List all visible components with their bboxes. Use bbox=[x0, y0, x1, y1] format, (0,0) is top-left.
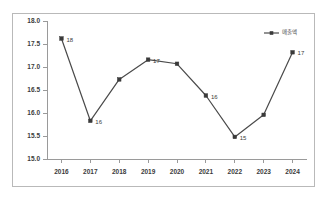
y-tick-label: 16.5 bbox=[27, 86, 40, 93]
x-tick-label: 2023 bbox=[256, 168, 271, 175]
y-tick-group: 18.017.517.016.516.015.515.0 bbox=[27, 17, 47, 162]
data-point-label: 18 bbox=[66, 37, 73, 43]
x-tick-label: 2017 bbox=[83, 168, 98, 175]
data-point-label: 16 bbox=[95, 119, 102, 125]
data-point-marker[interactable] bbox=[233, 135, 237, 139]
x-tick-label: 2018 bbox=[112, 168, 127, 175]
data-point-marker[interactable] bbox=[262, 113, 266, 117]
series-group: 181617161517 bbox=[60, 37, 305, 141]
legend[interactable]: 매출액 bbox=[264, 28, 297, 36]
x-tick-label: 2021 bbox=[199, 168, 214, 175]
data-point-label: 17 bbox=[153, 58, 160, 64]
x-tick-label: 2024 bbox=[285, 168, 300, 175]
data-point-marker[interactable] bbox=[60, 37, 64, 41]
data-point-marker[interactable] bbox=[204, 94, 208, 98]
data-point-label: 15 bbox=[240, 135, 247, 141]
legend-label: 매출액 bbox=[282, 28, 297, 36]
data-point-label: 16 bbox=[211, 94, 218, 100]
y-tick-label: 15.5 bbox=[27, 132, 40, 139]
x-tick-label: 2022 bbox=[228, 168, 243, 175]
y-tick-label: 18.0 bbox=[27, 17, 40, 24]
data-point-marker[interactable] bbox=[146, 58, 150, 62]
x-tick-group: 201620172018201920202021202220232024 bbox=[54, 159, 300, 175]
y-tick-label: 15.0 bbox=[27, 155, 40, 162]
y-tick-label: 17.5 bbox=[27, 40, 40, 47]
chart-frame: 18.017.517.016.516.015.515.0 20162017201… bbox=[12, 13, 315, 187]
x-tick-label: 2016 bbox=[54, 168, 69, 175]
legend-swatch-marker bbox=[270, 31, 274, 35]
series-point-labels: 181617161517 bbox=[66, 37, 304, 141]
data-point-marker[interactable] bbox=[89, 119, 93, 123]
x-tick-label: 2020 bbox=[170, 168, 185, 175]
data-point-marker[interactable] bbox=[117, 78, 121, 82]
line-chart: 18.017.517.016.516.015.515.0 20162017201… bbox=[13, 14, 314, 186]
x-tick-label: 2019 bbox=[141, 168, 156, 175]
data-point-marker[interactable] bbox=[175, 62, 179, 66]
y-tick-label: 16.0 bbox=[27, 109, 40, 116]
y-tick-label: 17.0 bbox=[27, 63, 40, 70]
data-point-marker[interactable] bbox=[291, 50, 295, 54]
data-point-label: 17 bbox=[298, 50, 305, 56]
